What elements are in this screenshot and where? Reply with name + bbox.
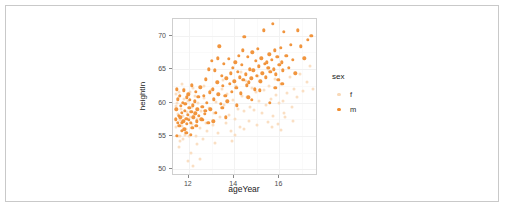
data-point-f — [278, 102, 281, 105]
data-point-f — [305, 80, 308, 83]
data-point-f — [239, 70, 242, 73]
data-point-f — [284, 116, 287, 119]
data-point-f — [283, 112, 286, 115]
y-tick-label: 65 — [149, 65, 166, 72]
legend-item-m[interactable]: m — [332, 102, 382, 117]
data-point-m — [251, 51, 254, 54]
data-point-m — [262, 29, 265, 32]
data-point-m — [240, 63, 243, 66]
data-point-m — [246, 55, 249, 58]
data-point-m — [274, 73, 277, 76]
legend-entries: fm — [332, 87, 382, 117]
data-point-m — [207, 67, 210, 70]
y-axis-title: heightIn — [138, 82, 147, 110]
data-point-m — [188, 98, 191, 101]
data-point-f — [230, 140, 233, 143]
data-point-f — [281, 100, 284, 103]
data-point-f — [243, 128, 246, 131]
data-point-m — [236, 70, 239, 73]
data-point-f — [276, 122, 279, 125]
data-point-m — [243, 35, 246, 38]
data-point-m — [285, 54, 288, 57]
legend-title: sex — [332, 72, 382, 81]
legend-key-m — [332, 103, 346, 117]
scatter-plot-figure: heightIn ageYear sex fm 5055606570121416 — [0, 0, 507, 212]
data-point-f — [253, 108, 256, 111]
data-point-f — [286, 92, 289, 95]
data-point-m — [197, 95, 200, 98]
data-point-f — [261, 111, 264, 114]
data-point-m — [272, 67, 275, 70]
data-point-m — [309, 34, 312, 37]
data-point-m — [282, 30, 285, 33]
data-point-f — [279, 128, 282, 131]
data-point-f — [233, 117, 236, 120]
data-point-m — [230, 90, 233, 93]
legend-label: m — [350, 105, 356, 114]
data-point-m — [264, 75, 267, 78]
data-point-m — [206, 121, 209, 124]
x-tick-label: 16 — [275, 180, 283, 187]
data-point-f — [309, 65, 312, 68]
data-point-m — [220, 74, 223, 77]
data-point-m — [204, 77, 207, 80]
gridline-y-major — [173, 69, 316, 70]
data-point-f — [247, 119, 250, 122]
data-point-m — [289, 43, 292, 46]
data-point-f — [238, 125, 241, 128]
data-point-f — [220, 88, 223, 91]
data-point-f — [181, 82, 184, 85]
data-point-m — [235, 86, 238, 89]
data-point-m — [223, 94, 226, 97]
data-point-f — [176, 101, 179, 104]
y-tick-mark — [169, 102, 172, 103]
data-point-f — [268, 85, 271, 88]
data-point-m — [258, 89, 261, 92]
data-point-f — [256, 123, 259, 126]
data-point-m — [201, 105, 204, 108]
data-point-m — [250, 98, 253, 101]
gridline-x-major — [279, 19, 280, 174]
data-point-m — [232, 79, 235, 82]
data-point-f — [292, 120, 295, 123]
data-point-f — [189, 151, 192, 154]
data-point-f — [179, 140, 182, 143]
data-point-f — [195, 142, 198, 145]
data-point-m — [268, 53, 271, 56]
data-point-m — [214, 111, 217, 114]
gridline-x-major — [234, 19, 235, 174]
data-point-m — [203, 109, 206, 112]
data-point-f — [275, 94, 278, 97]
data-point-m — [179, 104, 182, 107]
data-point-m — [216, 57, 219, 60]
data-point-f — [206, 129, 209, 132]
data-point-m — [261, 71, 264, 74]
data-point-f — [269, 97, 272, 100]
data-point-f — [271, 114, 274, 117]
data-point-m — [193, 111, 196, 114]
data-point-m — [227, 57, 230, 60]
x-tick-mark — [188, 175, 189, 178]
y-tick-label: 70 — [149, 31, 166, 38]
legend-item-f[interactable]: f — [332, 87, 382, 102]
y-tick-label: 60 — [149, 98, 166, 105]
data-point-m — [281, 69, 284, 72]
gridline-x-minor — [257, 19, 258, 174]
data-point-m — [274, 86, 277, 89]
data-point-f — [293, 88, 296, 91]
data-point-m — [294, 71, 297, 74]
data-point-m — [212, 120, 215, 123]
data-point-m — [217, 93, 220, 96]
legend-label: f — [350, 90, 352, 99]
data-point-m — [188, 106, 191, 109]
data-point-m — [257, 65, 260, 68]
legend-dot-icon — [337, 108, 340, 111]
data-point-f — [232, 98, 235, 101]
data-point-f — [258, 99, 261, 102]
data-point-f — [298, 73, 301, 76]
y-tick-label: 50 — [149, 165, 166, 172]
data-point-f — [182, 137, 185, 140]
data-point-m — [247, 81, 250, 84]
data-point-m — [194, 90, 197, 93]
data-point-m — [256, 47, 259, 50]
